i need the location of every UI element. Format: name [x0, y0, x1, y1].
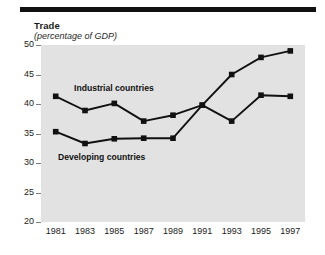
trade-chart-figure: Trade (percentage of GDP) 50454035302520… [0, 0, 325, 255]
data-point-marker [170, 112, 176, 118]
data-point-marker [288, 48, 294, 54]
data-point-marker [229, 72, 235, 78]
data-point-marker [82, 141, 88, 147]
data-point-marker [112, 136, 118, 142]
data-point-marker [258, 92, 264, 98]
data-point-marker [288, 94, 294, 100]
data-point-marker [112, 101, 118, 107]
data-point-marker [229, 118, 235, 124]
series-layer [0, 0, 325, 255]
data-point-marker [82, 108, 88, 114]
data-point-marker [141, 135, 147, 141]
data-point-marker [53, 94, 59, 100]
data-point-marker [170, 135, 176, 141]
series-label-industrial: Industrial countries [74, 83, 154, 93]
data-point-marker [258, 55, 264, 61]
data-point-marker [141, 118, 147, 124]
data-point-marker [53, 129, 59, 135]
data-point-marker [200, 102, 206, 108]
series-label-developing: Developing countries [58, 152, 145, 162]
